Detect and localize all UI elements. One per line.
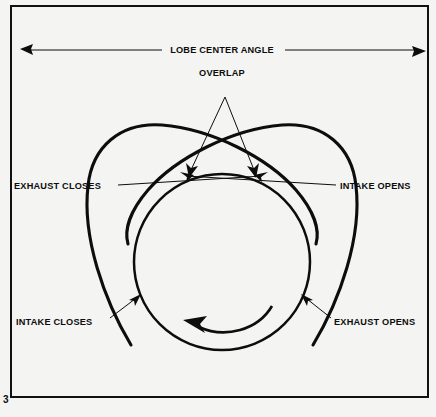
exhaust-opens-label: EXHAUST OPENS — [334, 317, 415, 327]
overlap-label: OVERLAP — [199, 68, 245, 78]
intake-closes-label: INTAKE CLOSES — [16, 317, 92, 327]
camshaft-valve-timing-diagram: LOBE CENTER ANGLE OVERLAP EXHAUST CLOSES — [0, 0, 436, 417]
lobe-center-angle-label: LOBE CENTER ANGLE — [170, 45, 274, 55]
figure-background — [0, 0, 436, 417]
exhaust-closes-label: EXHAUST CLOSES — [14, 181, 101, 191]
valve-timing-figure: LOBE CENTER ANGLE OVERLAP EXHAUST CLOSES — [0, 0, 436, 417]
page-number: 3 — [3, 394, 9, 405]
intake-opens-label: INTAKE OPENS — [340, 181, 411, 191]
